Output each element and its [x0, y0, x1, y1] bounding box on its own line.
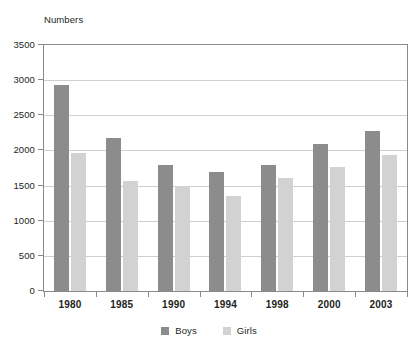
x-tick-mark [303, 292, 304, 297]
x-tick-mark [96, 292, 97, 297]
bar-group [200, 45, 252, 291]
bar-boys-1990 [158, 165, 173, 291]
bar-boys-2000 [313, 144, 328, 291]
x-tick-label: 2000 [318, 299, 341, 310]
x-tick-mark [200, 292, 201, 297]
x-axis-labels: 1980198519901994199820002003 [44, 299, 407, 315]
legend-item-boys[interactable]: Boys [161, 325, 197, 336]
x-tick-mark [251, 292, 252, 297]
y-tick-mark [38, 255, 43, 256]
bar-group [96, 45, 148, 291]
y-tick-mark [38, 114, 43, 115]
bar-boys-1985 [106, 138, 121, 291]
x-tick-label: 1985 [110, 299, 133, 310]
x-axis-ticks [43, 292, 408, 298]
legend-swatch-icon [161, 327, 169, 335]
x-tick-mark [355, 292, 356, 297]
bars-layer [44, 45, 407, 291]
y-tick-mark [38, 220, 43, 221]
x-tick-mark [407, 292, 408, 297]
bar-group [148, 45, 200, 291]
y-tick-mark [38, 290, 43, 291]
bar-girls-1998 [278, 178, 293, 291]
bar-girls-1980 [71, 153, 86, 291]
bar-boys-2003 [365, 131, 380, 291]
x-tick-mark [148, 292, 149, 297]
bar-girls-1994 [226, 196, 241, 291]
bar-girls-2000 [330, 167, 345, 291]
legend-label: Boys [175, 325, 197, 336]
bar-girls-1990 [175, 186, 190, 291]
bar-boys-1994 [209, 172, 224, 291]
bar-group [251, 45, 303, 291]
x-tick-label: 1980 [58, 299, 81, 310]
y-tick-mark [38, 44, 43, 45]
legend-item-girls[interactable]: Girls [223, 325, 257, 336]
chart-legend: BoysGirls [0, 325, 418, 336]
y-axis-title: Numbers [44, 14, 83, 25]
legend-label: Girls [237, 325, 257, 336]
bar-chart: Numbers 0500100015002000250030003500 198… [0, 0, 418, 349]
bar-girls-2003 [382, 155, 397, 291]
bar-group [303, 45, 355, 291]
x-tick-label: 1998 [266, 299, 289, 310]
bar-boys-1998 [261, 165, 276, 291]
y-tick-label: 2500 [13, 109, 35, 120]
legend-swatch-icon [223, 327, 231, 335]
y-tick-mark [38, 79, 43, 80]
y-tick-label: 0 [30, 285, 35, 296]
x-tick-label: 1994 [214, 299, 237, 310]
bar-boys-1980 [54, 85, 69, 291]
y-tick-label: 3500 [13, 39, 35, 50]
y-tick-label: 1500 [13, 179, 35, 190]
bar-girls-1985 [123, 181, 138, 291]
x-tick-label: 1990 [162, 299, 185, 310]
y-tick-mark [38, 149, 43, 150]
bar-group [44, 45, 96, 291]
y-tick-label: 3000 [13, 74, 35, 85]
y-axis-ticks: 0500100015002000250030003500 [0, 44, 40, 292]
y-tick-mark [38, 185, 43, 186]
y-tick-label: 1000 [13, 214, 35, 225]
y-tick-label: 2000 [13, 144, 35, 155]
x-tick-mark [44, 292, 45, 297]
x-tick-label: 2003 [370, 299, 393, 310]
bar-group [355, 45, 407, 291]
y-tick-label: 500 [19, 249, 35, 260]
